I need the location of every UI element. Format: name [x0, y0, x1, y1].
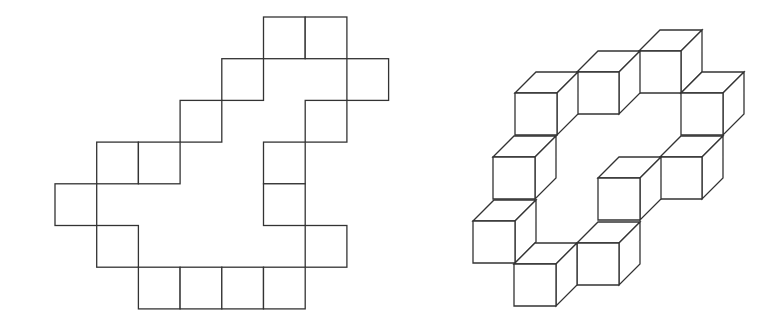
net-square — [264, 142, 306, 184]
cube-front-face — [493, 157, 535, 199]
net-square — [347, 59, 389, 101]
cube — [598, 157, 661, 220]
cube-front-face — [639, 51, 681, 93]
cube-front-face — [515, 93, 557, 135]
net-square — [305, 100, 347, 142]
cube — [577, 222, 640, 285]
net-square — [138, 267, 180, 309]
flat-net — [55, 17, 389, 309]
cube-front-face — [577, 72, 619, 114]
net-square — [180, 267, 222, 309]
cube — [577, 51, 640, 114]
cube-front-face — [660, 157, 702, 199]
cube — [660, 136, 723, 199]
net-square — [222, 267, 264, 309]
cube-front-face — [473, 221, 515, 263]
net-square — [305, 226, 347, 268]
isometric-cubes — [473, 30, 744, 306]
net-square — [264, 267, 306, 309]
net-square — [264, 17, 306, 59]
net-square — [55, 184, 97, 226]
net-square — [222, 59, 264, 101]
net-square — [97, 142, 139, 184]
net-square — [264, 184, 306, 226]
cube — [515, 72, 578, 135]
net-square — [138, 142, 180, 184]
cube-front-face — [514, 264, 556, 306]
cube-front-face — [681, 93, 723, 135]
puzzle-figure — [0, 0, 780, 331]
cube-front-face — [577, 243, 619, 285]
net-square — [97, 226, 139, 268]
cube — [493, 136, 556, 199]
cube-front-face — [598, 178, 640, 220]
net-square — [180, 100, 222, 142]
net-square — [305, 17, 347, 59]
